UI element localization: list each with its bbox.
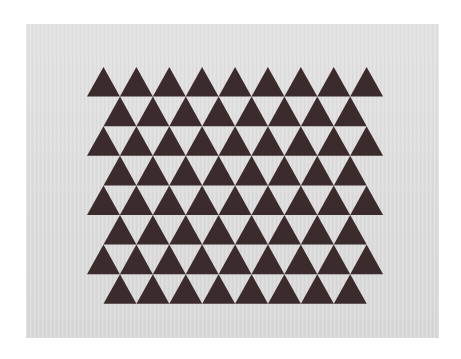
triangle [284, 67, 317, 97]
triangle-row-1 [87, 67, 383, 97]
triangle [202, 97, 235, 127]
triangle [301, 97, 334, 127]
triangle [219, 185, 252, 215]
triangle [317, 126, 350, 156]
triangle [284, 126, 317, 156]
triangle [87, 185, 120, 215]
triangle-pattern [0, 0, 461, 359]
triangle [153, 67, 186, 97]
triangle [334, 97, 367, 127]
triangle [350, 67, 383, 97]
triangle [87, 245, 120, 275]
triangle [235, 215, 268, 245]
triangle [268, 274, 301, 304]
triangle [87, 126, 120, 156]
triangle [301, 274, 334, 304]
triangle [104, 156, 137, 186]
triangle [268, 97, 301, 127]
triangle [120, 185, 153, 215]
triangle [186, 126, 219, 156]
triangle [169, 274, 202, 304]
triangle [252, 126, 285, 156]
triangle-row-6 [104, 215, 367, 245]
triangle [268, 215, 301, 245]
triangle [284, 185, 317, 215]
triangle [136, 215, 169, 245]
triangle [268, 156, 301, 186]
triangle-row-3 [87, 126, 383, 156]
triangle [334, 156, 367, 186]
triangle-row-7 [87, 245, 383, 275]
triangle [87, 67, 120, 97]
triangle [350, 185, 383, 215]
triangle [120, 245, 153, 275]
triangle [153, 185, 186, 215]
triangle [219, 67, 252, 97]
triangle [169, 156, 202, 186]
triangle-row-8 [104, 274, 367, 304]
triangle [252, 67, 285, 97]
triangle [153, 245, 186, 275]
triangle [104, 97, 137, 127]
triangle [186, 67, 219, 97]
triangle [104, 274, 137, 304]
triangle [169, 97, 202, 127]
triangle-row-2 [104, 97, 367, 127]
triangle-row-5 [87, 185, 383, 215]
triangle-row-4 [104, 156, 367, 186]
triangle [317, 245, 350, 275]
triangle [136, 97, 169, 127]
triangle [301, 156, 334, 186]
triangle [317, 185, 350, 215]
triangle [120, 67, 153, 97]
triangle [235, 274, 268, 304]
triangle [334, 215, 367, 245]
triangle [219, 245, 252, 275]
triangle [284, 245, 317, 275]
triangle [350, 126, 383, 156]
triangle [136, 274, 169, 304]
triangle [202, 274, 235, 304]
triangle [186, 245, 219, 275]
triangle [334, 274, 367, 304]
triangle [301, 215, 334, 245]
triangle [252, 185, 285, 215]
photo-stage [0, 0, 461, 359]
triangle [136, 156, 169, 186]
triangle [169, 215, 202, 245]
triangle [202, 156, 235, 186]
triangle [350, 245, 383, 275]
triangle [252, 245, 285, 275]
triangle [219, 126, 252, 156]
triangle [202, 215, 235, 245]
triangle [235, 156, 268, 186]
triangle [317, 67, 350, 97]
triangle [235, 97, 268, 127]
triangle [186, 185, 219, 215]
triangle [120, 126, 153, 156]
triangle [104, 215, 137, 245]
triangle [153, 126, 186, 156]
